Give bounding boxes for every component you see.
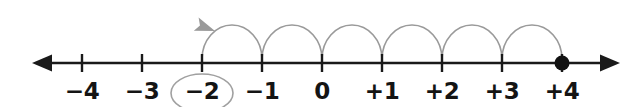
number-line-figure: −4−3−2−10+1+2+3+4 (0, 0, 635, 107)
tick-label-0: 0 (314, 80, 330, 103)
jump-arc-2-to-1 (382, 25, 442, 59)
axis-group (32, 55, 620, 72)
axis-left-arrowhead (32, 55, 52, 72)
jump-arc-4-to-3 (502, 25, 562, 59)
tick-label--3: −3 (125, 80, 159, 103)
tick-label--2: −2 (185, 80, 219, 103)
tick-label-1: +1 (365, 80, 399, 103)
tick-label--1: −1 (245, 80, 279, 103)
tick-label--4: −4 (65, 80, 99, 103)
point-marker-plus-4 (555, 56, 570, 71)
axis-right-arrowhead (600, 55, 620, 72)
tick-label-3: +3 (485, 80, 519, 103)
jump-arrowhead (194, 18, 218, 38)
jump-arc-3-to-2 (442, 25, 502, 59)
jump-arc-1-to-0 (322, 25, 382, 59)
jump-arc-0-to--1 (262, 25, 322, 59)
jump-arrowhead-triangle (194, 18, 218, 38)
jump-arcs-group (194, 18, 562, 59)
tick-label-2: +2 (425, 80, 459, 103)
point-marker-group (555, 56, 570, 71)
tick-label-4: +4 (545, 80, 579, 103)
